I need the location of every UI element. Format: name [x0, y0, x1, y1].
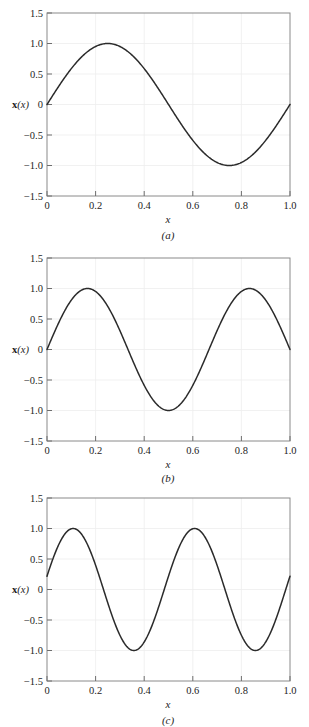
y-tick-label: −1.0 [24, 645, 43, 656]
x-tick-label: 0.6 [186, 685, 199, 696]
y-axis-label-c: x(x) [12, 584, 29, 596]
y-tick-label: 0 [38, 99, 43, 110]
y-tick-label: −1.5 [24, 436, 43, 447]
y-tick-label: 1.0 [30, 283, 43, 294]
y-tick-label: −0.5 [24, 130, 43, 141]
panel-caption-c: (c) [162, 714, 175, 727]
x-tickmarks-a [47, 191, 290, 196]
y-tick-label: 1.5 [30, 253, 43, 264]
x-tick-label: 0 [44, 445, 49, 456]
x-tick-label: 0.8 [235, 685, 248, 696]
x-tick-label: 0.8 [235, 200, 248, 211]
x-tick-label: 0.2 [89, 200, 102, 211]
y-tick-label: −1.5 [24, 191, 43, 202]
y-tick-label: −1.0 [24, 160, 43, 171]
x-tick-label: 0.4 [138, 445, 152, 456]
y-tick-label: −0.5 [24, 375, 43, 386]
y-tick-label: 1.5 [30, 493, 43, 504]
x-tick-label: 1.0 [283, 685, 296, 696]
y-tick-label: 1.0 [30, 38, 43, 49]
y-tick-label: 1.5 [30, 8, 43, 19]
three-panel-sine-figure: 1.5 1.0 0.5 0 −0.5 −1.0 −1.5 0 0.2 0.4 0… [0, 0, 309, 727]
x-tick-label: 1.0 [283, 200, 296, 211]
panel-caption-b: (b) [162, 472, 175, 485]
plot-panel-a: 1.5 1.0 0.5 0 −0.5 −1.0 −1.5 0 0.2 0.4 0… [0, 0, 309, 245]
plot-svg-a: 1.5 1.0 0.5 0 −0.5 −1.0 −1.5 0 0.2 0.4 0… [0, 0, 309, 245]
y-tick-label: −1.0 [24, 405, 43, 416]
y-tickmarks-c [47, 498, 52, 681]
y-tick-label: −0.5 [24, 615, 43, 626]
x-tick-label: 0.6 [186, 445, 199, 456]
y-axis-label-a: x(x) [12, 99, 29, 111]
x-tickmarks-b [47, 436, 290, 441]
y-tick-label: 1.0 [30, 523, 43, 534]
x-tick-label: 0 [44, 200, 49, 211]
y-tick-label: 0.5 [30, 314, 43, 325]
y-tick-label: 0 [38, 584, 43, 595]
x-tick-label: 0.6 [186, 200, 199, 211]
gridlines-c [47, 498, 290, 681]
x-axis-label-a: x [165, 213, 171, 225]
plot-svg-b: 1.5 1.0 0.5 0 −0.5 −1.0 −1.5 0 0.2 0.4 0… [0, 245, 309, 485]
x-tick-label: 0.8 [235, 445, 248, 456]
plot-svg-c: 1.5 1.0 0.5 0 −0.5 −1.0 −1.5 0 0.2 0.4 0… [0, 485, 309, 727]
gridlines-b [47, 258, 290, 441]
y-tick-label: 0.5 [30, 69, 43, 80]
x-tick-label: 0.2 [89, 445, 102, 456]
x-tick-label: 0 [44, 685, 49, 696]
x-tick-label: 0.2 [89, 685, 102, 696]
panel-caption-a: (a) [162, 229, 175, 242]
y-tick-label: 0 [38, 344, 43, 355]
x-tickmarks-c [47, 676, 290, 681]
y-tick-label: −1.5 [24, 676, 43, 687]
x-axis-label-c: x [165, 698, 171, 710]
x-tick-label: 0.4 [138, 685, 152, 696]
x-tick-label: 0.4 [138, 200, 152, 211]
y-axis-label-b: x(x) [12, 344, 29, 356]
plot-panel-c: 1.5 1.0 0.5 0 −0.5 −1.0 −1.5 0 0.2 0.4 0… [0, 485, 309, 727]
x-axis-label-b: x [165, 458, 171, 470]
x-tick-label: 1.0 [283, 445, 296, 456]
plot-panel-b: 1.5 1.0 0.5 0 −0.5 −1.0 −1.5 0 0.2 0.4 0… [0, 245, 309, 485]
y-tick-label: 0.5 [30, 554, 43, 565]
